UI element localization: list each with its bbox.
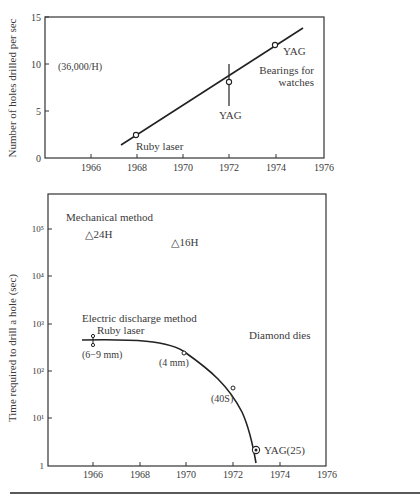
top-point-1972 (226, 79, 231, 84)
top-xtick-1972: 1972 (219, 162, 239, 173)
bottom-label-16h: △16H (171, 236, 198, 248)
bottom-label-mechanical: Mechanical method (66, 211, 154, 223)
top-label-bearings-2: watches (279, 76, 314, 88)
bottom-ytick-1e3: 10³ (32, 319, 44, 329)
bottom-label-edm: Electric discharge method (82, 312, 197, 324)
bottom-ytick-1e2: 10² (32, 366, 44, 376)
bottom-label-24h: △24H (85, 228, 112, 240)
top-xtick-1966: 1966 (81, 162, 101, 173)
bottom-point-40s (231, 386, 235, 390)
bottom-xtick-1968: 1968 (130, 469, 150, 480)
bottom-xtick-1966: 1966 (83, 469, 103, 480)
top-xtick-1970: 1970 (173, 162, 193, 173)
top-ytick-0: 0 (36, 153, 41, 164)
bottom-label-4mm: (4 mm) (159, 357, 189, 369)
bottom-ytick-1: 1 (40, 461, 45, 471)
bottom-label-yag25: YAG(25) (264, 444, 305, 457)
bottom-xtick-1970: 1970 (176, 469, 196, 480)
bottom-xtick-1974: 1974 (270, 469, 290, 480)
top-xtick-1976: 1976 (314, 162, 334, 173)
top-label-yag-1972: YAG (219, 109, 242, 121)
bottom-label-40s: (40S) (211, 393, 233, 405)
top-xtick-1974: 1974 (266, 162, 286, 173)
bottom-label-6-9mm: (6−9 mm) (82, 349, 122, 361)
top-label-yag-1974: YAG (283, 45, 306, 57)
top-point-1974 (272, 42, 277, 47)
bottom-label-ruby-laser: Ruby laser (97, 324, 145, 336)
top-ytick-15: 15 (31, 12, 41, 23)
bottom-ytick-1e5: 10⁵ (32, 224, 44, 234)
bottom-point-4mm (182, 351, 186, 355)
top-ytick-5: 5 (36, 106, 41, 117)
top-y-axis-label: Number of holes drilled per sec (6, 18, 18, 157)
top-note-rate: (36,000/H) (58, 61, 102, 73)
top-xtick-1968: 1968 (127, 162, 147, 173)
figure: 15 10 5 0 1966 1968 1970 1972 1974 1976 … (0, 0, 420, 498)
top-label-bearings-1: Bearings for (259, 64, 314, 76)
top-chart: 15 10 5 0 1966 1968 1970 1972 1974 1976 … (6, 12, 334, 173)
top-ytick-10: 10 (31, 59, 41, 70)
bottom-label-diamond-dies: Diamond dies (249, 329, 310, 341)
bottom-chart: 10⁵ 10⁴ 10³ 10² 10¹ 1 1966 1968 1970 197… (6, 194, 337, 480)
bottom-y-axis-label: Time required to drill a hole (sec) (6, 274, 19, 422)
top-label-ruby-laser: Ruby laser (136, 140, 184, 152)
bottom-ytick-1e1: 10¹ (32, 413, 44, 423)
bottom-ytick-1e4: 10⁴ (32, 271, 44, 281)
bottom-xtick-1972: 1972 (223, 469, 243, 480)
bottom-xtick-1976: 1976 (317, 469, 337, 480)
top-point-1968 (133, 132, 138, 137)
